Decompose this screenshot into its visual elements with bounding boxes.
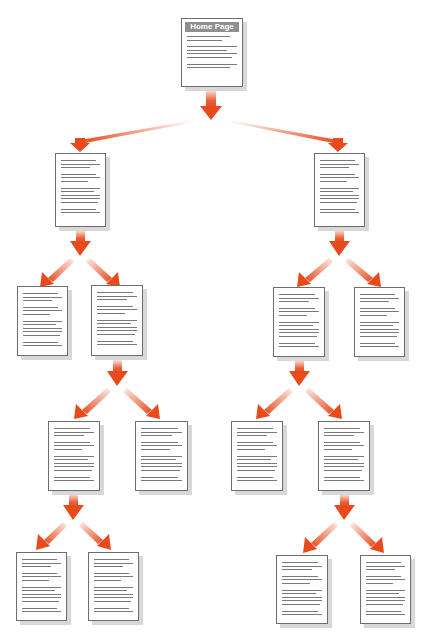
text-lines — [141, 428, 182, 484]
text-lines — [54, 428, 94, 484]
text-lines — [237, 428, 277, 484]
page-node-l2d — [354, 287, 405, 357]
page-node-l4b — [88, 552, 139, 621]
arrow-l2b-split — [74, 360, 160, 419]
arrow-l1b-split — [297, 230, 381, 287]
arrow-l1a-split — [40, 230, 120, 287]
arrow-l2c-split — [256, 360, 342, 419]
page-node-l4c — [276, 555, 328, 624]
arrow-home-to-l1a — [70, 120, 195, 152]
text-lines — [23, 293, 62, 349]
page-node-home: Home Page — [181, 18, 243, 87]
text-lines — [320, 160, 359, 216]
page-node-l2a — [17, 286, 68, 356]
text-lines — [324, 428, 364, 484]
arrow-home-to-l1b — [228, 120, 348, 152]
text-lines — [366, 562, 405, 618]
page-node-l1a — [55, 153, 106, 227]
page-node-l1b — [314, 153, 365, 227]
page-node-l4a — [16, 552, 67, 621]
arrow-l3a-split — [36, 494, 111, 550]
text-lines — [360, 294, 399, 350]
text-lines — [282, 562, 322, 618]
text-lines — [22, 559, 61, 615]
page-node-l2b — [91, 285, 143, 356]
page-node-l3a — [48, 421, 100, 491]
text-lines — [279, 294, 319, 350]
home-page-label: Home Page — [185, 22, 239, 32]
page-node-l2c — [273, 287, 325, 357]
arrow-l3d-split — [303, 494, 384, 553]
text-lines — [61, 160, 100, 216]
arrow-home-down — [200, 90, 222, 120]
page-node-l4d — [360, 555, 411, 624]
text-lines — [94, 559, 133, 615]
page-node-l3c — [231, 421, 283, 491]
page-node-l3b — [135, 421, 188, 491]
text-lines — [97, 292, 137, 348]
text-lines — [187, 36, 237, 71]
page-node-l3d — [318, 421, 370, 491]
